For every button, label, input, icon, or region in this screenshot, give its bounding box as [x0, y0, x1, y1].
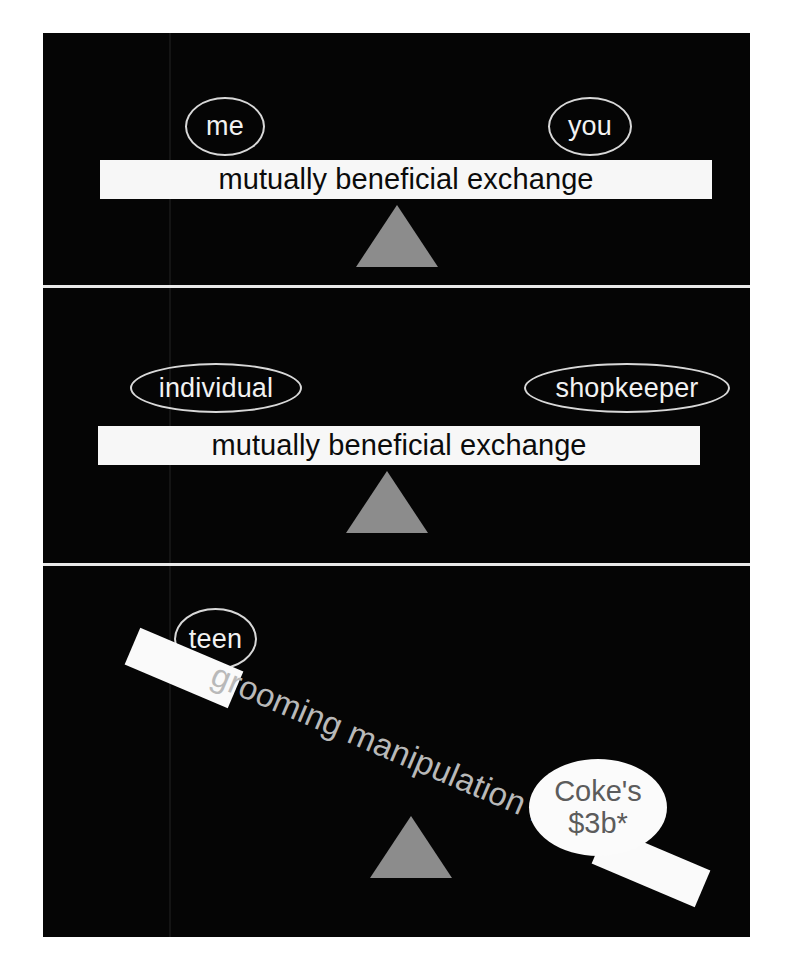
- balance-beam-2: mutually beneficial exchange: [98, 426, 700, 465]
- balance-beam-1: mutually beneficial exchange: [100, 160, 712, 199]
- label-bubble-me-text: me: [206, 111, 244, 142]
- label-bubble-individual-text: individual: [159, 373, 274, 404]
- label-bubble-you: you: [548, 97, 632, 156]
- page-root: me you mutually beneficial exchange indi…: [0, 0, 786, 971]
- label-bubble-individual: individual: [130, 363, 302, 413]
- label-bubble-shopkeeper-text: shopkeeper: [555, 373, 698, 404]
- panel-tipped-teen-coke: teen grooming manipulation harm Coke's $…: [43, 565, 750, 937]
- figure-canvas: me you mutually beneficial exchange indi…: [43, 33, 750, 937]
- label-bubble-me: me: [185, 97, 265, 156]
- balance-beam-1-text: mutually beneficial exchange: [218, 163, 593, 196]
- label-bubble-coke-line-2: $3b*: [568, 808, 628, 839]
- label-bubble-shopkeeper: shopkeeper: [524, 363, 730, 413]
- label-bubble-you-text: you: [568, 111, 612, 142]
- label-bubble-coke: Coke's $3b*: [529, 759, 667, 856]
- tipped-balance-group: grooming manipulation harm: [43, 565, 750, 937]
- panel-balanced-me-you: me you mutually beneficial exchange: [43, 33, 750, 287]
- fulcrum-triangle-icon: [370, 816, 452, 878]
- panel-balanced-individual-shopkeeper: individual shopkeeper mutually beneficia…: [43, 287, 750, 565]
- label-bubble-coke-line-1: Coke's: [554, 776, 642, 807]
- fulcrum-triangle-icon: [356, 205, 438, 267]
- fulcrum-triangle-icon: [346, 471, 428, 533]
- balance-beam-2-text: mutually beneficial exchange: [211, 429, 586, 462]
